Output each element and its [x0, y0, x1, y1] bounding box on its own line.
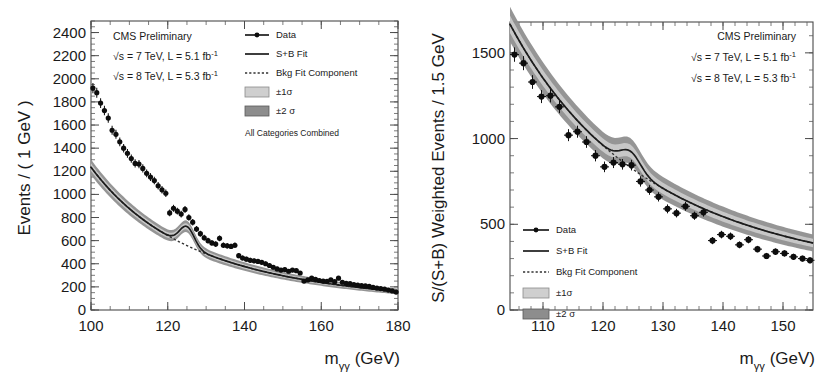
data-marker [691, 213, 697, 219]
data-point [194, 226, 199, 232]
y-tick-label: 2200 [53, 47, 86, 64]
legend-label: S+B Fit [556, 245, 588, 256]
x-axis-title: mγγ (GeV) [325, 349, 400, 372]
data-point [98, 98, 103, 108]
data-marker [547, 93, 553, 99]
y-tick-label: 1500 [472, 44, 505, 61]
legend-label: Bkg Fit Component [556, 266, 638, 277]
legend-swatch-1sigma [523, 288, 549, 298]
data-marker [736, 242, 742, 248]
data-marker [121, 146, 126, 151]
cms-preliminary-label: CMS Preliminary [717, 30, 797, 42]
x-tick-label: 150 [770, 317, 795, 334]
lumi-7tev-label: √s = 7 TeV, L = 5.1 fb-1 [113, 49, 218, 63]
legend-label: ±2 σ [276, 105, 295, 116]
data-marker [167, 210, 172, 215]
legend-entry: ±1σ [245, 86, 292, 97]
data-marker [332, 279, 337, 284]
two-sigma-band [91, 159, 398, 294]
data-marker [117, 139, 122, 144]
data-marker [601, 164, 607, 170]
y-axis-title: S/(S+B) Weighted Events / 1.5 GeV [429, 33, 448, 303]
legend-label: ±2 σ [556, 308, 575, 319]
fit-curves [91, 159, 398, 294]
data-point [167, 210, 172, 217]
cms-preliminary-label: CMS Preliminary [113, 30, 193, 42]
data-marker [799, 255, 805, 261]
data-marker [772, 249, 778, 255]
data-point [298, 270, 303, 275]
data-marker [511, 51, 517, 57]
data-marker [217, 236, 222, 241]
legend-label: ±1σ [556, 287, 572, 298]
data-marker [144, 171, 149, 176]
y-tick-label: 2000 [53, 70, 86, 87]
data-marker [106, 116, 111, 121]
data-marker [565, 132, 571, 138]
header-block: CMS Preliminary√s = 7 TeV, L = 5.1 fb-1√… [113, 30, 218, 82]
data-point [780, 250, 789, 256]
data-marker [637, 178, 643, 184]
data-marker [682, 203, 688, 209]
data-marker [556, 104, 562, 110]
data-marker [179, 211, 184, 216]
y-axis-title: Events / ( 1 GeV ) [15, 100, 34, 235]
y-tick-label: 400 [61, 255, 86, 272]
legend-label: Data [276, 29, 297, 40]
data-marker [807, 257, 813, 263]
one-sigma-band [91, 163, 398, 293]
data-marker [182, 207, 187, 212]
y-tick-label: 1000 [472, 130, 505, 147]
data-marker [592, 153, 598, 159]
data-point [198, 231, 203, 237]
legend-entry: S+B Fit [245, 48, 308, 59]
data-marker [646, 187, 652, 193]
y-tick-label: 1200 [53, 162, 86, 179]
legend-label: Bkg Fit Component [276, 67, 358, 78]
data-marker [156, 183, 161, 188]
data-marker [152, 178, 157, 183]
legend-entry: Bkg Fit Component [523, 266, 638, 277]
data-marker [98, 100, 103, 105]
y-tick-label: 600 [61, 232, 86, 249]
data-point [117, 137, 122, 146]
legend: DataS+B FitBkg Fit Component±1σ±2 σ [523, 224, 638, 319]
legend-entry: Bkg Fit Component [245, 67, 358, 78]
data-point [217, 235, 222, 241]
data-marker [619, 161, 625, 167]
plot-panel-left: 1001201401601800200400600800100012001400… [0, 0, 418, 379]
lumi-7tev-label: √s = 7 TeV, L = 5.1 fb-1 [691, 50, 796, 64]
bkg-fit-curve [91, 167, 398, 291]
legend-marker [255, 33, 260, 38]
data-point [190, 219, 195, 225]
data-marker [763, 253, 769, 259]
header-block: CMS Preliminary√s = 7 TeV, L = 5.1 fb-1√… [691, 30, 797, 84]
data-marker [110, 128, 115, 133]
data-marker [538, 93, 544, 99]
plot-panel-right: 110120130140150050010001500mγγ (GeV)S/(S… [418, 0, 836, 379]
data-point [744, 236, 753, 243]
data-marker [610, 159, 616, 165]
data-marker [129, 156, 134, 161]
y-tick-label: 0 [78, 301, 86, 318]
data-marker [213, 242, 218, 247]
data-point [663, 204, 672, 213]
data-marker [709, 237, 715, 243]
legend-label: Data [556, 224, 577, 235]
legend-label: ±1σ [276, 86, 292, 97]
sb-fit-curve [91, 167, 397, 291]
data-marker [727, 233, 733, 239]
legend-entry: S+B Fit [523, 245, 588, 256]
y-tick-label: 200 [61, 278, 86, 295]
x-tick-label: 160 [309, 317, 334, 334]
data-point [600, 162, 609, 173]
data-marker [520, 60, 526, 66]
data-point [332, 279, 337, 284]
legend: DataS+B FitBkg Fit Component±1σ±2 σ [245, 29, 358, 116]
data-marker [745, 237, 751, 243]
y-tick-label: 1800 [53, 93, 86, 110]
data-marker [664, 206, 670, 212]
data-marker [232, 243, 237, 248]
data-point [771, 248, 780, 255]
data-marker [90, 85, 95, 90]
